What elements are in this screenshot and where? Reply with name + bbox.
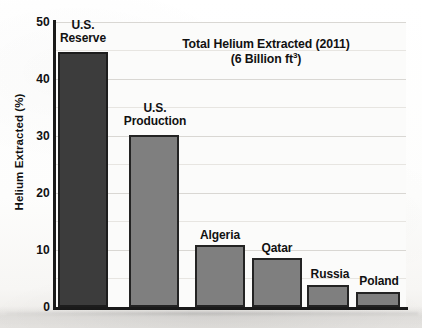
ytick-label-0: 0 — [4, 300, 50, 314]
helium-extraction-bar-chart-figure: U.S. Reserve U.S. Production Algeria Qat… — [0, 0, 422, 328]
bar-us-reserve — [58, 52, 108, 307]
bar-label-us-production-line2: Production — [124, 114, 186, 128]
ytick-label-50: 50 — [4, 15, 50, 29]
bar-label-us-reserve: U.S. Reserve — [46, 19, 120, 45]
ytick-label-10: 10 — [4, 243, 50, 257]
chart-title: Total Helium Extracted (2011) (6 Billion… — [150, 37, 382, 67]
y-axis-line — [53, 20, 56, 310]
bar-us-production — [129, 135, 179, 307]
bar-label-qatar: Qatar — [246, 242, 308, 255]
bar-label-poland-line1: Poland — [359, 274, 398, 288]
bar-label-poland: Poland — [350, 275, 408, 288]
chart-subtitle-prefix: (6 Billion ft — [231, 52, 293, 66]
bar-label-qatar-line1: Qatar — [262, 241, 293, 255]
bar-label-russia-line1: Russia — [311, 267, 350, 281]
ytick-label-30: 30 — [4, 129, 50, 143]
bar-qatar — [252, 258, 302, 307]
chart-subtitle-suffix: ) — [297, 52, 301, 66]
y-axis-tick-labels: 50 40 30 20 10 0 — [0, 0, 50, 328]
chart-title-main: Total Helium Extracted (2011) — [182, 37, 350, 51]
bar-russia — [307, 285, 349, 307]
ytick-label-20: 20 — [4, 186, 50, 200]
y-axis-title: Helium Extracted (%) — [13, 67, 25, 237]
bar-label-us-reserve-line2: Reserve — [60, 31, 106, 45]
bar-label-algeria: Algeria — [185, 229, 255, 242]
bar-poland — [356, 292, 400, 307]
bar-label-us-production: U.S. Production — [113, 102, 197, 128]
chart-subtitle: (6 Billion ft3) — [150, 52, 382, 67]
bar-label-us-production-line1: U.S. — [144, 101, 167, 115]
bar-algeria — [195, 245, 245, 307]
x-axis-line — [53, 307, 408, 310]
ytick-label-40: 40 — [4, 72, 50, 86]
bar-label-algeria-line1: Algeria — [200, 228, 240, 242]
bar-label-us-reserve-line1: U.S. — [72, 18, 95, 32]
